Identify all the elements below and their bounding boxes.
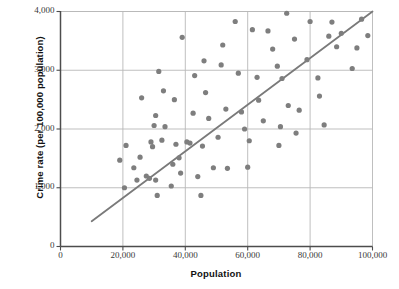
y-tick-label: 2,000 bbox=[3, 123, 55, 133]
x-tick-label: 60,000 bbox=[213, 250, 283, 260]
x-tick-label: 20,000 bbox=[88, 250, 158, 260]
scatter-chart: 01,0002,0003,0004,000 020,00040,00060,00… bbox=[0, 0, 399, 289]
x-tick-label: 40,000 bbox=[150, 250, 220, 260]
x-tick-label: 80,000 bbox=[275, 250, 345, 260]
x-axis-title: Population bbox=[60, 268, 372, 279]
y-tick-label: 3,000 bbox=[3, 64, 55, 74]
y-axis-title: Crime rate (per 100,000 population) bbox=[34, 18, 45, 218]
data-points bbox=[117, 11, 370, 198]
x-tick-label: 0 bbox=[26, 250, 96, 260]
trend-line bbox=[92, 12, 373, 222]
y-tick-label: 0 bbox=[3, 240, 55, 250]
x-tick-label: 100,000 bbox=[338, 250, 399, 260]
y-tick-label: 1,000 bbox=[3, 181, 55, 191]
plot-canvas bbox=[0, 0, 399, 289]
y-tick-label: 4,000 bbox=[3, 5, 55, 15]
